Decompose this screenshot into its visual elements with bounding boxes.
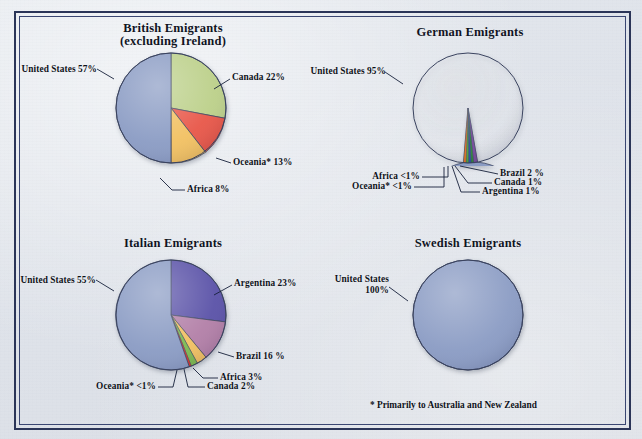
footnote: * Primarily to Australia and New Zealand <box>370 400 537 410</box>
chart-title-british: British Emigrants (excluding Ireland) <box>73 22 273 48</box>
chart-title-british-sub: (excluding Ireland) <box>73 35 273 48</box>
pie-german <box>410 50 526 166</box>
chart-title-german: German Emigrants <box>370 26 570 39</box>
label-italian-united-states: United States 55% <box>6 275 96 285</box>
chart-title-italian-main: Italian Emigrants <box>124 236 222 250</box>
pie-swedish-svg <box>410 257 526 373</box>
pie-swedish <box>410 257 526 373</box>
label-british-africa: Africa 8% <box>187 184 229 194</box>
label-swedish-united-states: United States 100% <box>306 274 389 296</box>
chart-title-italian: Italian Emigrants <box>73 237 273 250</box>
label-italian-argentina: Argentina 23% <box>234 278 297 288</box>
label-german-argentina: Argentina 1% <box>482 186 540 196</box>
chart-swedish: Swedish Emigrants United States 100% <box>330 235 630 430</box>
pie-italian-svg <box>113 257 229 373</box>
pie-swedish-sheen <box>413 260 523 370</box>
chart-title-swedish-main: Swedish Emigrants <box>415 236 522 250</box>
label-british-canada: Canada 22% <box>232 72 285 82</box>
pie-british-svg <box>113 50 229 166</box>
label-swedish-united-states-line2: 100% <box>365 285 389 295</box>
chart-title-german-main: German Emigrants <box>416 25 523 39</box>
pie-german-svg <box>410 50 526 166</box>
label-german-africa: Africa <1% <box>348 171 420 181</box>
label-german-united-states: United States 95% <box>302 66 386 76</box>
pie-italian-sheen <box>116 260 226 370</box>
label-german-oceania: Oceania* <1% <box>332 181 412 191</box>
chart-british: British Emigrants (excluding Ireland) <box>28 20 318 220</box>
pie-italian <box>113 257 229 373</box>
label-italian-oceania: Oceania* <1% <box>70 381 156 391</box>
label-italian-canada: Canada 2% <box>207 381 255 391</box>
label-italian-brazil: Brazil 16 % <box>236 351 285 361</box>
chart-italian: Italian Emigrants <box>28 235 318 430</box>
label-swedish-united-states-line1: United States <box>335 274 389 284</box>
pie-british-sheen <box>116 53 226 163</box>
pie-british <box>113 50 229 166</box>
chart-german: German Emigrants <box>330 20 630 220</box>
chart-title-swedish: Swedish Emigrants <box>368 237 568 250</box>
chart-title-british-main: British Emigrants <box>123 21 223 35</box>
figure-page: British Emigrants (excluding Ireland) <box>0 0 642 439</box>
label-british-oceania: Oceania* 13% <box>233 157 292 167</box>
pie-german-sheen <box>413 53 523 163</box>
label-british-united-states: United States 57% <box>5 64 97 74</box>
